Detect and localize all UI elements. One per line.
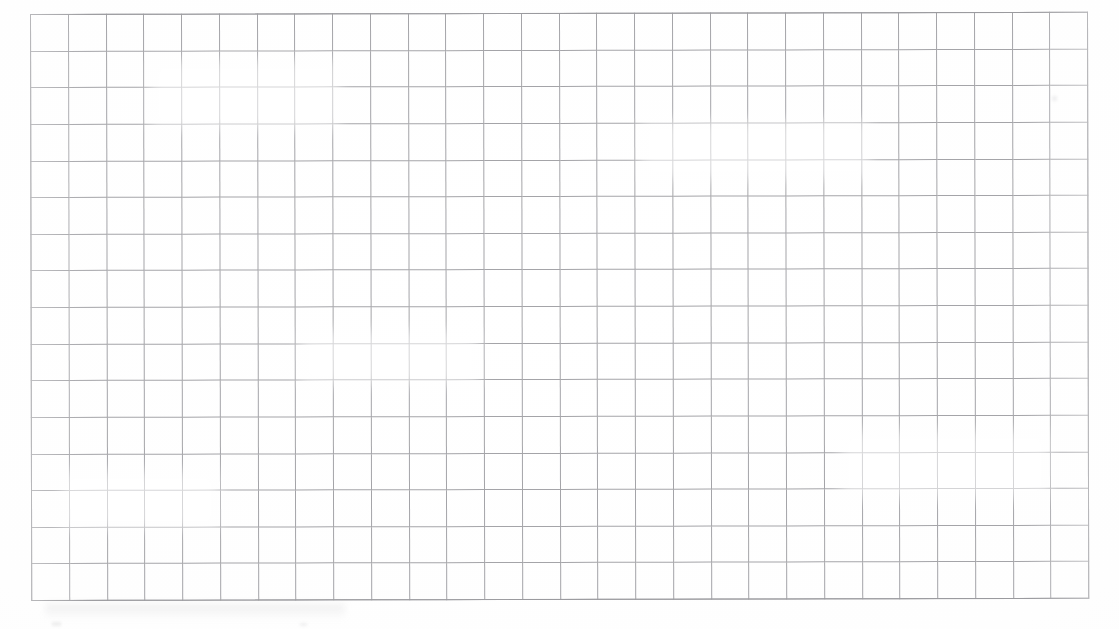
grid-cell <box>749 526 787 563</box>
grid-row <box>31 379 1088 418</box>
grid-cell <box>522 380 560 417</box>
grid-body <box>31 12 1089 600</box>
grid-cell <box>334 563 372 600</box>
grid-cell <box>559 123 597 160</box>
grid-cell <box>371 490 409 527</box>
grid-cell <box>900 415 938 452</box>
grid-cell <box>144 161 182 198</box>
grid-cell <box>1012 195 1050 232</box>
grid-cell <box>484 453 522 490</box>
grid-cell <box>597 86 635 123</box>
grid-cell <box>673 269 711 306</box>
grid-cell <box>938 562 976 599</box>
grid-cell <box>182 454 220 491</box>
grid-cell <box>1050 342 1088 379</box>
grid-cell <box>522 490 560 527</box>
grid-cell <box>106 88 144 125</box>
grid-cell <box>31 124 69 161</box>
grid-cell <box>522 197 560 234</box>
grid-cell <box>31 88 69 125</box>
grid-cell <box>220 234 258 271</box>
grid-cell <box>598 563 636 600</box>
grid-cell <box>748 269 786 306</box>
grid-cell <box>257 160 295 197</box>
grid-cell <box>409 526 447 563</box>
grid-cell <box>371 453 409 490</box>
grid-cell <box>786 159 824 196</box>
grid-cell <box>862 416 900 453</box>
grid-cell <box>1013 269 1051 306</box>
grid-cell <box>1012 232 1050 269</box>
scanned-page <box>0 0 1119 629</box>
grid-cell <box>711 526 749 563</box>
grid-cell <box>673 160 711 197</box>
grid-cell <box>861 86 899 123</box>
grid-cell <box>1012 12 1050 49</box>
grid-cell <box>408 233 446 270</box>
grid-cell <box>220 380 258 417</box>
grid-cell <box>975 269 1013 306</box>
grid-cell <box>975 525 1013 562</box>
grid-cell <box>333 160 371 197</box>
grid-cell <box>522 563 560 600</box>
grid-cell <box>371 233 409 270</box>
grid-cell <box>106 161 144 198</box>
grid-cell <box>145 380 183 417</box>
grid-cell <box>672 13 710 50</box>
grid-cell <box>824 526 862 563</box>
grid-cell <box>68 14 106 51</box>
grid-cell <box>333 270 371 307</box>
grid-cell <box>446 14 484 51</box>
grid-cell <box>220 490 258 527</box>
grid-cell <box>862 525 900 562</box>
grid-cell <box>333 453 371 490</box>
grid-cell <box>635 489 673 526</box>
grid-cell <box>446 343 484 380</box>
grid-cell <box>106 51 144 88</box>
grid-cell <box>1050 12 1088 49</box>
grid-cell <box>220 307 258 344</box>
grid-cell <box>295 234 333 271</box>
grid-cell <box>257 234 295 271</box>
grid-cell <box>182 197 220 234</box>
grid-row <box>31 159 1088 198</box>
grid-cell <box>370 14 408 51</box>
grid-cell <box>258 380 296 417</box>
grid-cell <box>258 270 296 307</box>
grid-cell <box>975 562 1013 599</box>
grid-cell <box>31 198 69 235</box>
grid-cell <box>975 232 1013 269</box>
grid-cell <box>68 51 106 88</box>
grid-cell <box>144 234 182 271</box>
grid-cell <box>447 380 485 417</box>
grid-cell <box>447 453 485 490</box>
grid-cell <box>484 416 522 453</box>
grid-cell <box>446 270 484 307</box>
grid-cell <box>748 343 786 380</box>
grid-cell <box>598 489 636 526</box>
grid-cell <box>862 452 900 489</box>
grid-cell <box>1050 232 1088 269</box>
grid-cell <box>597 160 635 197</box>
grid-cell <box>446 197 484 234</box>
grid-cell <box>408 197 446 234</box>
grid-cell <box>521 13 559 50</box>
grid-cell <box>710 50 748 87</box>
grid-cell <box>68 88 106 125</box>
grid-cell <box>107 527 145 564</box>
grid-cell <box>31 307 69 344</box>
grid-cell <box>484 343 522 380</box>
grid-cell <box>182 490 220 527</box>
grid-cell <box>522 160 560 197</box>
grid-cell <box>711 489 749 526</box>
grid-cell <box>785 13 823 50</box>
grid-cell <box>824 452 862 489</box>
grid-cell <box>107 307 145 344</box>
grid-cell <box>748 306 786 343</box>
grid-paper <box>30 12 1089 601</box>
grid-cell <box>937 86 975 123</box>
grid-cell <box>258 344 296 381</box>
grid-cell <box>1050 159 1088 196</box>
grid-cell <box>485 526 523 563</box>
grid-cell <box>636 563 674 600</box>
